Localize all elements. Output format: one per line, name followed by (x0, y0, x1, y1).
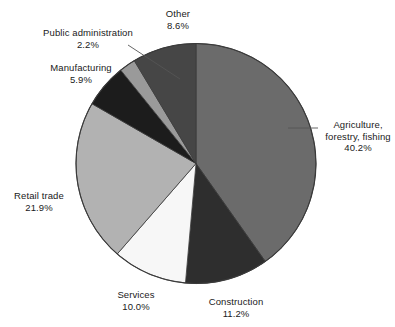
slice-label-other: Other 8.6% (146, 8, 210, 31)
slice-label-public-administration: Public administration 2.2% (24, 27, 152, 50)
slice-label-retail-trade-value: 21.9% (4, 202, 74, 214)
slice-label-agriculture-name-line1: Agriculture, (322, 119, 394, 131)
slice-label-construction-name: Construction (194, 296, 278, 308)
slice-label-construction: Construction 11.2% (194, 296, 278, 319)
slice-label-retail-trade-name: Retail trade (4, 190, 74, 202)
slice-label-services: Services 10.0% (100, 289, 172, 312)
slice-label-manufacturing: Manufacturing 5.9% (32, 62, 130, 85)
slice-label-construction-value: 11.2% (194, 308, 278, 320)
slice-label-public-administration-value: 2.2% (24, 39, 152, 51)
slice-label-agriculture-name-line2: forestry, fishing (322, 131, 394, 143)
slice-label-services-value: 10.0% (100, 301, 172, 313)
slice-label-manufacturing-name: Manufacturing (32, 62, 130, 74)
slice-label-services-name: Services (100, 289, 172, 301)
slice-label-agriculture: Agriculture, forestry, fishing 40.2% (322, 119, 394, 154)
pie-chart-figure: Other 8.6% Public administration 2.2% Ma… (0, 0, 395, 327)
slice-label-agriculture-value: 40.2% (322, 142, 394, 154)
slice-label-other-value: 8.6% (146, 20, 210, 32)
slice-label-retail-trade: Retail trade 21.9% (4, 190, 74, 213)
slice-label-manufacturing-value: 5.9% (32, 74, 130, 86)
slice-label-public-administration-name: Public administration (24, 27, 152, 39)
slice-label-other-name: Other (146, 8, 210, 20)
